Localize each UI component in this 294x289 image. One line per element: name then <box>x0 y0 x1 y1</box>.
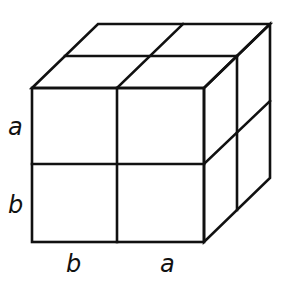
label-bottom-right: a <box>160 250 175 278</box>
label-bottom-left: b <box>66 250 81 278</box>
front-face <box>32 88 204 242</box>
cube-diagram: a b b a <box>0 0 294 289</box>
top-face <box>32 24 270 88</box>
label-left-upper: a <box>8 113 23 141</box>
label-left-lower: b <box>8 191 23 219</box>
